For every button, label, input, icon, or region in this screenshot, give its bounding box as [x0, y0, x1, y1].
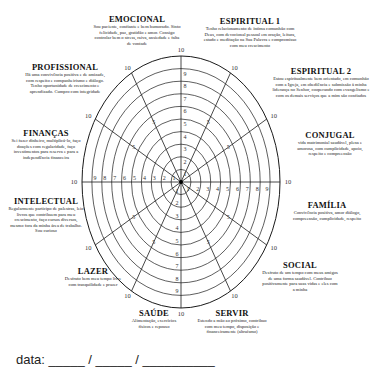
area-servir: SERVIR Estendo a mão ao próximo, contrib… [194, 308, 270, 335]
scale-number: 5 [133, 175, 136, 181]
scale-number: 2 [184, 159, 187, 165]
scale-number: 10 [124, 64, 131, 71]
scale-number: 10 [178, 46, 185, 53]
scale-number: 3 [206, 186, 209, 192]
scale-number: 4 [216, 186, 219, 192]
scale-number: 8 [256, 186, 259, 192]
scale-number: 10 [270, 244, 277, 251]
area-familia: FAMÍLIA Convivência positiva, amor diálo… [290, 200, 364, 221]
scale-number: 9 [176, 288, 179, 294]
area-description: Estou espiritualmente bem orientado, em … [272, 76, 370, 98]
scale-number: 4 [143, 175, 146, 181]
area-description: Estendo a mão ao próximo, contribuo com … [194, 318, 270, 335]
scale-number: 9 [266, 186, 269, 192]
area-espiritual-2: ESPIRITUAL 2 Estou espiritualmente bem o… [272, 66, 370, 98]
area-lazer: LAZER Desfruto bem meu tempo livre com t… [64, 266, 122, 287]
area-title: FINANÇAS [10, 128, 82, 138]
scale-number: 10 [285, 178, 292, 185]
area-description: Tenho relacionamento de íntima comunhão … [202, 26, 298, 48]
area-description: vida matrimonial saudável, plena e amoro… [290, 140, 370, 157]
scale-number: 1 [186, 186, 189, 192]
scale-number: 9 [184, 71, 187, 77]
scale-number: 4 [184, 134, 187, 140]
scale-number: 10 [124, 292, 131, 299]
scale-number: 7 [113, 175, 116, 181]
scale-number: 1 [184, 171, 187, 177]
scale-number: 3 [176, 213, 179, 219]
scale-number: 6 [236, 186, 239, 192]
area-title: SERVIR [194, 308, 270, 318]
scale-number: 7 [184, 96, 187, 102]
area-title: CONJUGAL [290, 130, 370, 140]
area-title: PROFISSIONAL [24, 62, 106, 72]
scale-number: 2 [176, 200, 179, 206]
area-title: FAMÍLIA [290, 200, 364, 210]
center-dot [179, 180, 183, 184]
area-social: SOCIAL Desfruto de um tempo com meus ami… [262, 260, 338, 292]
scale-number: 4 [176, 225, 179, 231]
scale-number: 6 [123, 175, 126, 181]
area-profissional: PROFISSIONAL Há uma convivência positiva… [24, 62, 106, 94]
scale-number: 9 [93, 175, 96, 181]
scale-number: 1 [176, 188, 179, 194]
scale-number: 10 [85, 244, 92, 251]
scale-number: 10 [270, 112, 277, 119]
area-description: Alimentação, exercícios físicos e repous… [126, 318, 182, 329]
area-description: Sei fazer dinheiro, multiplicá-lo, faço … [10, 138, 82, 160]
area-title: SOCIAL [262, 260, 338, 270]
scale-number: 10 [71, 178, 78, 185]
area-conjugal: CONJUGAL vida matrimonial saudável, plen… [290, 130, 370, 157]
area-title: SAÚDE [126, 308, 182, 318]
scale-number: 7 [246, 186, 249, 192]
scale-number: 5 [184, 121, 187, 127]
area-intelectual: INTELECTUAL Regularmente participo de pa… [8, 196, 84, 234]
scale-number: 8 [176, 276, 179, 282]
area-financas: FINANÇAS Sei fazer dinheiro, multiplicá-… [10, 128, 82, 160]
scale-number: 10 [231, 64, 238, 71]
area-title: LAZER [64, 266, 122, 276]
area-title: INTELECTUAL [8, 196, 84, 206]
area-espiritual-1: ESPIRITUAL 1 Tenho relacionamento de ínt… [202, 16, 298, 48]
scale-number: 6 [184, 108, 187, 114]
wheel-of-life-diagram: 1111222233334444555566667777888899991010… [0, 0, 370, 390]
scale-number: 5 [132, 214, 135, 220]
scale-number: 8 [184, 83, 187, 89]
scale-number: 2 [163, 175, 166, 181]
scale-number: 6 [176, 251, 179, 257]
scale-number: 5 [176, 238, 179, 244]
area-description: Convivência positiva, amor diálogo, comp… [290, 210, 364, 221]
scale-number: 5 [226, 186, 229, 192]
scale-number: 5 [227, 144, 230, 150]
scale-number: 5 [132, 144, 135, 150]
area-description: Sou paciente, confiante e bem humorado. … [92, 24, 182, 46]
area-title: ESPIRITUAL 1 [202, 16, 298, 26]
area-description: Desfruto de um tempo com meus amigos de … [262, 270, 338, 292]
scale-number: 10 [85, 112, 92, 119]
scale-number: 3 [184, 146, 187, 152]
scale-number: 5 [152, 239, 155, 245]
area-description: Desfruto bem meu tempo livre com tranqui… [64, 276, 122, 287]
scale-number: 5 [207, 239, 210, 245]
area-description: Há uma convivência positiva e de amizade… [24, 72, 106, 94]
date-blanks[interactable]: _____ / _____ / __________ [49, 352, 215, 367]
scale-number: 10 [231, 292, 238, 299]
scale-number: 2 [196, 186, 199, 192]
scale-number: 7 [176, 263, 179, 269]
scale-number: 5 [227, 214, 230, 220]
date-field[interactable]: data: _____ / _____ / __________ [16, 352, 215, 367]
scale-number: 1 [173, 175, 176, 181]
scale-number: 3 [153, 175, 156, 181]
date-label: data: [16, 352, 45, 367]
area-emocional: EMOCIONAL Sou paciente, confiante e bem … [92, 14, 182, 46]
scale-number: 5 [152, 119, 155, 125]
area-title: ESPIRITUAL 2 [272, 66, 370, 76]
scale-number: 5 [207, 119, 210, 125]
area-title: EMOCIONAL [92, 14, 182, 24]
area-saude: SAÚDE Alimentação, exercícios físicos e … [126, 308, 182, 329]
area-description: Regularmente participo de palestras, lei… [8, 206, 84, 234]
scale-number: 8 [103, 175, 106, 181]
